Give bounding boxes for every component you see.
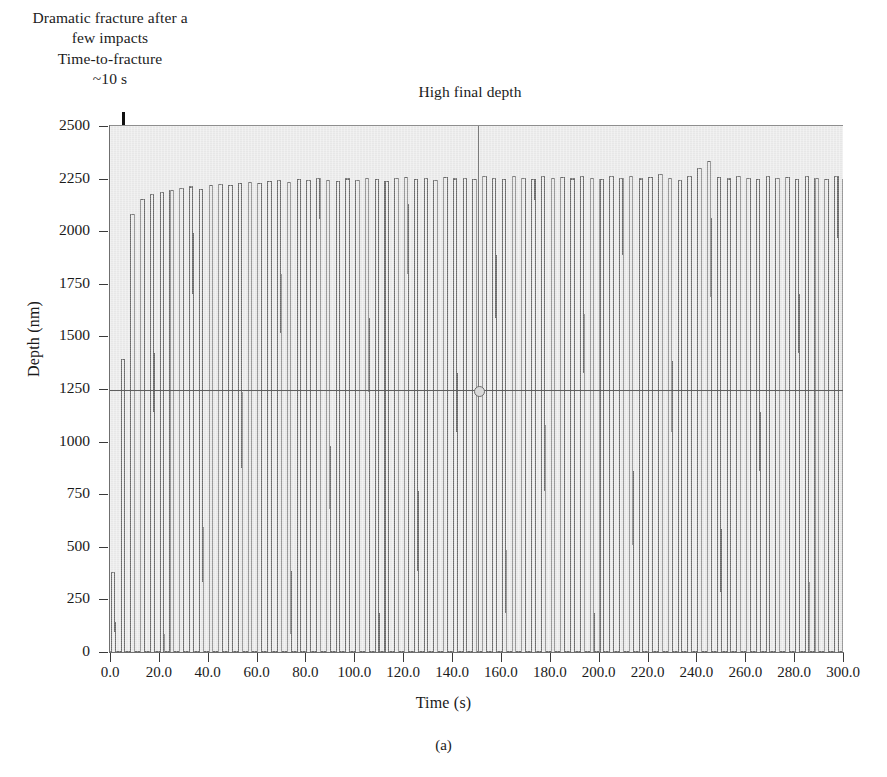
y-tick-label: 1250: [24, 379, 96, 397]
y-tick: [99, 652, 108, 653]
plot-top-border: [110, 125, 843, 126]
x-tick: [745, 653, 746, 662]
y-tick-label-text: 2250: [24, 169, 90, 187]
y-tick: [99, 442, 108, 443]
y-tick-label-text: 500: [24, 537, 90, 555]
x-tick: [208, 653, 209, 662]
y-tick-label: 1500: [24, 326, 96, 344]
y-tick-label-text: 1500: [24, 326, 90, 344]
x-tick: [452, 653, 453, 662]
y-tick: [99, 126, 108, 127]
y-tick: [99, 284, 108, 285]
impact-depth-path: [110, 162, 843, 652]
y-tick-label-text: 1000: [24, 432, 90, 450]
annotation-dramatic-fracture: Dramatic fracture after a few impacts Ti…: [4, 8, 216, 90]
y-tick-label: 1750: [24, 274, 96, 292]
y-tick-label-text: 250: [24, 589, 90, 607]
y-tick-label: 500: [24, 537, 96, 555]
x-tick: [550, 653, 551, 662]
subfigure-caption: (a): [0, 737, 887, 754]
y-tick-label-text: 0: [24, 642, 90, 660]
x-tick: [843, 653, 844, 662]
x-tick: [648, 653, 649, 662]
y-tick-label-text: 750: [24, 484, 90, 502]
x-tick: [599, 653, 600, 662]
x-tick: [354, 653, 355, 662]
cursor-center-dot: [474, 386, 485, 397]
y-tick-label: 250: [24, 589, 96, 607]
y-tick: [99, 547, 108, 548]
x-tick: [794, 653, 795, 662]
x-tick: [257, 653, 258, 662]
x-tick-label: 300.0: [814, 664, 872, 681]
y-tick-label: 2250: [24, 169, 96, 187]
y-tick-label: 2000: [24, 221, 96, 239]
y-tick-label: 750: [24, 484, 96, 502]
y-tick: [99, 336, 108, 337]
y-tick-label-text: 2000: [24, 221, 90, 239]
x-tick: [305, 653, 306, 662]
x-tick: [501, 653, 502, 662]
x-tick: [696, 653, 697, 662]
figure-panel: Dramatic fracture after a few impacts Ti…: [0, 0, 887, 777]
y-tick: [99, 389, 108, 390]
y-tick-label: 1000: [24, 432, 96, 450]
y-tick-label-text: 1750: [24, 274, 90, 292]
y-tick-label-text: 2500: [24, 116, 90, 134]
y-tick: [99, 494, 108, 495]
y-tick-label-text: 1250: [24, 379, 90, 397]
y-tick: [99, 599, 108, 600]
y-axis-line: [109, 125, 110, 653]
y-tick-label: 0: [24, 642, 96, 660]
x-tick: [403, 653, 404, 662]
x-tick: [110, 653, 111, 662]
x-tick: [159, 653, 160, 662]
y-tick: [99, 231, 108, 232]
annotation-high-final-depth: High final depth: [360, 82, 580, 102]
y-tick-label: 2500: [24, 116, 96, 134]
x-axis-label: Time (s): [0, 694, 887, 712]
y-tick: [99, 179, 108, 180]
x-axis-line: [109, 652, 844, 653]
